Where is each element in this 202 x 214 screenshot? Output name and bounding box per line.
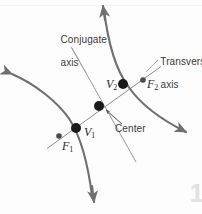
transverse-axis-label-line2: axis bbox=[161, 79, 179, 90]
center-point bbox=[94, 101, 104, 111]
vertex-2-point bbox=[118, 79, 128, 89]
vertex-1-point bbox=[71, 123, 81, 133]
focus-2-subscript: 2 bbox=[154, 83, 158, 92]
focus-1-label: F1 bbox=[62, 140, 73, 156]
hyperbola-diagram: Conjugate axis Transverse axis Center V1… bbox=[0, 0, 202, 214]
center-label: Center bbox=[115, 123, 146, 134]
conjugate-axis-label-line1: Conjugate bbox=[61, 34, 108, 45]
vertex-2-subscript: 2 bbox=[113, 83, 117, 92]
left-branch-lower-arrow bbox=[92, 186, 94, 202]
conjugate-axis-label: Conjugate axis bbox=[49, 22, 107, 80]
vertex-1-label: V1 bbox=[84, 126, 95, 142]
vertex-2-label: V2 bbox=[106, 78, 117, 94]
focus-2-label: F2 bbox=[147, 78, 158, 94]
focus-2-point bbox=[140, 77, 146, 83]
page-number: 1 bbox=[190, 180, 202, 206]
right-branch-upper-arrow bbox=[103, 6, 105, 20]
left-branch-curve bbox=[12, 74, 92, 196]
vertex-1-subscript: 1 bbox=[91, 131, 95, 140]
transverse-axis-label-line1: Transverse bbox=[160, 56, 202, 67]
conjugate-axis-label-line2: axis bbox=[61, 57, 79, 68]
focus-1-point bbox=[56, 133, 62, 139]
focus-1-subscript: 1 bbox=[69, 145, 73, 154]
